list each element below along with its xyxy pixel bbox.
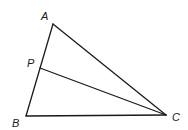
point-label-p: P — [27, 57, 35, 69]
segment-ab — [26, 24, 53, 116]
triangle-diagram: A P B C — [0, 0, 188, 130]
segment-pc — [40, 68, 166, 115]
segment-bc — [26, 115, 166, 116]
vertex-label-c: C — [172, 111, 180, 123]
vertex-label-a: A — [40, 10, 48, 22]
vertex-label-b: B — [12, 117, 19, 129]
segment-ac — [53, 24, 166, 115]
